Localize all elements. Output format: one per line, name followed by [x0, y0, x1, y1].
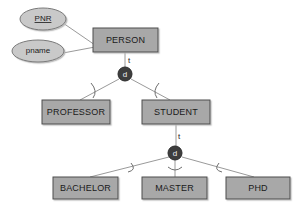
attribute-pname-label: pname	[26, 46, 51, 55]
attribute-pnr[interactable]: PNR	[20, 8, 66, 30]
entity-bachelor[interactable]: BACHELOR	[53, 177, 118, 199]
entity-bachelor-label: BACHELOR	[60, 183, 111, 193]
disjoint-circle-person-label: d	[123, 70, 127, 79]
attribute-pnr-label: PNR	[35, 14, 52, 23]
subset-arcs	[91, 83, 222, 172]
entity-phd[interactable]: PHD	[226, 177, 290, 199]
connector-pnr-person	[63, 23, 95, 45]
entity-student[interactable]: STUDENT	[142, 100, 210, 124]
edge-label-total-person: t	[128, 56, 131, 65]
attribute-pname[interactable]: pname	[12, 40, 64, 62]
er-diagram: PNR pname PERSON PROFESSOR STUDENT BACHE…	[0, 0, 305, 218]
entity-person-label: PERSON	[106, 35, 145, 45]
specialization-circle-student[interactable]: d	[168, 146, 182, 160]
disjoint-circle-student-label: d	[173, 149, 177, 158]
entity-student-label: STUDENT	[154, 107, 198, 117]
connector-pname-person	[63, 47, 95, 53]
er-diagram-canvas: PNR pname PERSON PROFESSOR STUDENT BACHE…	[0, 0, 305, 218]
entity-phd-label: PHD	[248, 183, 268, 193]
connector-d-student	[131, 79, 170, 100]
arc-professor-icon	[91, 83, 95, 98]
connector-d2-bachelor	[90, 157, 169, 177]
connector-d2-phd	[182, 157, 254, 177]
entity-master[interactable]: MASTER	[142, 177, 207, 199]
entity-professor[interactable]: PROFESSOR	[42, 100, 110, 124]
specialization-circle-person[interactable]: d	[118, 67, 132, 81]
connector-d-professor	[80, 79, 119, 100]
entity-master-label: MASTER	[155, 183, 194, 193]
entity-professor-label: PROFESSOR	[47, 107, 106, 117]
arc-student-icon	[155, 83, 159, 98]
edge-label-total-student: t	[178, 132, 181, 141]
entity-person[interactable]: PERSON	[93, 28, 158, 52]
